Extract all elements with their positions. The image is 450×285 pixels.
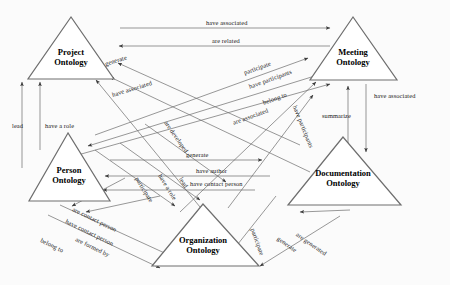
edge-label-lead-person-project: lead (12, 122, 23, 129)
edge-label-have-author: have author (196, 167, 227, 174)
edge-label-have-contact-person-documentation-person: have contact person (190, 180, 243, 187)
node-label-project-line2: Ontology (41, 57, 101, 67)
node-label-meeting-line1: Meeting (323, 47, 383, 57)
edge-label-have-a-role-person-project: have a role (45, 122, 74, 129)
node-label-organization-line2: Ontology (163, 245, 243, 255)
node-label-person-line2: Ontology (39, 175, 99, 185)
edge-belong-to-organization-meeting (180, 82, 316, 212)
node-label-organization-line1: Organization (163, 235, 243, 245)
node-label-meeting-line2: Ontology (323, 57, 383, 67)
ontology-diagram: Project Ontology Meeting Ontology Person… (0, 0, 450, 285)
node-label-person: Person Ontology (39, 165, 99, 185)
edge-label-have-associated-documentation-meeting: have associated (374, 92, 415, 99)
node-label-organization: Organization Ontology (163, 235, 243, 255)
node-label-project-line1: Project (41, 47, 101, 57)
node-label-person-line1: Person (39, 165, 99, 175)
edge-are-associated-documentation-meeting (60, 84, 330, 160)
edge-have-participants-meeting-person (88, 75, 318, 146)
node-label-documentation-line1: Documentation (300, 168, 386, 178)
node-label-project: Project Ontology (41, 47, 101, 67)
edge-generate-organization-documentation (260, 216, 340, 266)
node-label-documentation-line2: Ontology (300, 178, 386, 188)
node-label-meeting: Meeting Ontology (323, 47, 383, 67)
edge-are-generated-documentation-organization (300, 210, 350, 212)
node-label-documentation: Documentation Ontology (300, 168, 386, 188)
edge-label-are-related: are related (212, 37, 240, 44)
edge-label-have-associated-project-meeting: have associated (206, 19, 247, 26)
edge-label-generate-person-documentation: generate (186, 151, 208, 158)
edge-label-summarize: summarize (322, 112, 351, 119)
